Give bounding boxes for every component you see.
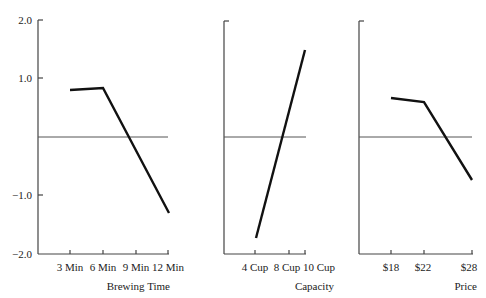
x-tick-label: 9 Min: [123, 261, 150, 273]
x-tick-label: 3 Min: [57, 261, 84, 273]
panel-brewing-time: 2.0 1.0 −1.0 −2.0 3 Min 6 Min 9 Min 12 M…: [12, 14, 185, 292]
panel-price: $18 $22 $28 Price: [359, 21, 478, 292]
y-label-neg1: −1.0: [12, 189, 32, 201]
conjoint-part-worth-charts: 2.0 1.0 −1.0 −2.0 3 Min 6 Min 9 Min 12 M…: [0, 0, 486, 298]
x-tick-label: 6 Min: [90, 261, 117, 273]
charts-svg: 2.0 1.0 −1.0 −2.0 3 Min 6 Min 9 Min 12 M…: [0, 0, 486, 298]
x-tick-label: $28: [461, 261, 478, 273]
x-tick-label: $18: [383, 261, 400, 273]
y-label-1: 1.0: [18, 72, 32, 84]
data-line-capacity: [256, 50, 305, 238]
x-axis-title: Brewing Time: [107, 280, 170, 292]
x-axis-title: Capacity: [295, 280, 335, 292]
x-tick-label: 8 Cup: [274, 261, 301, 273]
x-tick-label: 10 Cup: [303, 261, 336, 273]
x-tick-label: $22: [415, 261, 432, 273]
x-axis-title: Price: [454, 280, 477, 292]
y-label-2: 2.0: [18, 14, 32, 26]
y-label-neg2: −2.0: [12, 248, 32, 260]
data-line-price: [391, 98, 472, 180]
data-line-brewing-time: [70, 88, 169, 213]
panel-capacity: 4 Cup 8 Cup 10 Cup Capacity: [224, 21, 336, 292]
x-tick-label: 4 Cup: [242, 261, 269, 273]
x-tick-label: 12 Min: [152, 261, 185, 273]
